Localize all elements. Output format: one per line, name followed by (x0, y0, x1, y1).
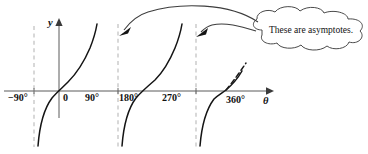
tick-label-270: 270° (162, 92, 181, 103)
tan-branch-3 (200, 71, 242, 146)
callout-label: These are asymptotes. (269, 25, 353, 35)
dashed-slope-segment-at-360 (226, 63, 246, 90)
callout-arrow-to-90 (119, 6, 258, 36)
callout-cloud: These are asymptotes. (253, 7, 362, 50)
tan-branch-2 (122, 24, 182, 146)
callout-arrow-to-270 (196, 24, 256, 37)
theta-axis-arrowhead (266, 87, 274, 95)
tan-branch-1 (38, 24, 97, 146)
tick-label-90: 90° (85, 92, 99, 103)
y-axis-label: y (46, 17, 53, 28)
theta-axis-label: θ (263, 95, 269, 106)
callout-arrow-curve-2 (201, 24, 256, 32)
tick-label-minus90: −90° (8, 92, 28, 103)
origin-label: 0 (63, 92, 68, 103)
tick-label-360: 360° (226, 94, 245, 105)
callout-arrow-head-2 (196, 28, 208, 37)
y-axis (55, 18, 62, 118)
tick-label-180: 180° (119, 92, 138, 103)
y-axis-arrowhead (55, 18, 62, 26)
asymptote-group (34, 24, 196, 147)
tangent-curve (38, 24, 242, 146)
tangent-graph-figure: −90° 0 90° 180° 270° 360° y θ These are … (0, 0, 368, 154)
